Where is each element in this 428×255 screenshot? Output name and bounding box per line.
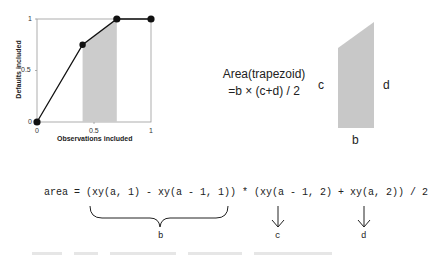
caption-clipped (32, 250, 332, 255)
code-label-d: d (361, 231, 366, 241)
code-label-c: c (275, 231, 280, 241)
code-label-b: b (158, 231, 163, 241)
arrow-down-icon (358, 206, 370, 227)
arrow-down-icon (272, 206, 284, 227)
brace-icon (90, 206, 228, 227)
